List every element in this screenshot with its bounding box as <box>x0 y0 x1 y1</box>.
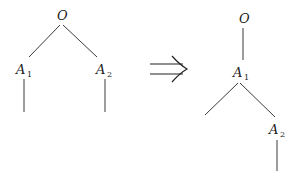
left-a2-subscript: 2 <box>107 70 112 79</box>
right-edge-a1-a2 <box>240 83 275 117</box>
right-tree: O A 1 A 2 <box>205 11 285 171</box>
left-a1-subscript: 1 <box>27 70 32 79</box>
right-a2-subscript: 2 <box>280 130 285 139</box>
left-tree: O A 1 A 2 <box>15 8 112 112</box>
left-edge-root-a2 <box>63 25 97 57</box>
diagram-canvas: O A 1 A 2 O A 1 A 2 <box>0 0 297 179</box>
left-a1-label: A <box>15 62 25 77</box>
right-root-label: O <box>239 11 250 26</box>
left-a2-label: A <box>95 62 105 77</box>
right-a2-label: A <box>268 122 278 137</box>
right-edge-a1-leaf <box>205 83 238 115</box>
right-a1-label: A <box>232 65 242 80</box>
implies-arrow-icon <box>150 56 187 82</box>
right-a1-subscript: 1 <box>244 73 249 82</box>
left-edge-root-a1 <box>29 25 60 57</box>
left-root-label: O <box>57 8 68 23</box>
